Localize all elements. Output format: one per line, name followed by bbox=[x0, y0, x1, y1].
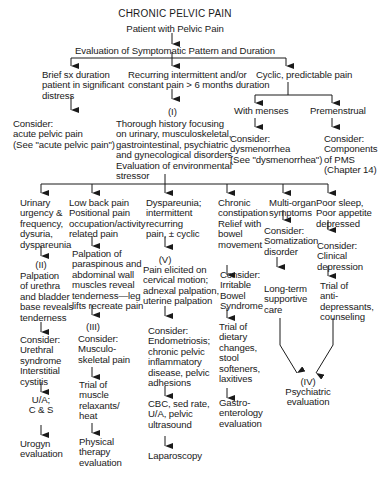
dysmenorrhea-node: Consider: dysmenorrhea (See "dysmenorrhe… bbox=[230, 134, 322, 165]
urethral-syndrome-node: Consider: Urethral syndrome Interstitial… bbox=[20, 335, 61, 387]
urethra-palpation-node: Palpation of urethra and bladder base re… bbox=[20, 271, 73, 323]
start-node: Patient with Pelvic Pain bbox=[100, 24, 250, 34]
muscle-relaxants-node: Trial of muscle relaxants/ heat bbox=[79, 380, 120, 422]
cyclic-node: Cyclic, predictable pain bbox=[256, 70, 352, 80]
multi-organ-node: Multi-organ symptoms bbox=[269, 198, 316, 219]
history-node: Thorough history focusing on urinary, mu… bbox=[116, 119, 232, 181]
acute-pain-node: Consider: acute pelvic pain (See "acute … bbox=[13, 119, 115, 150]
step-II-label: (II) bbox=[20, 260, 62, 270]
recurring-node: Recurring intermittent and/or constant p… bbox=[128, 70, 270, 91]
supportive-care-node: Long-term supportive care bbox=[264, 284, 307, 315]
gastroenterology-node: Gastro- enterology evaluation bbox=[219, 398, 263, 429]
ibs-node: Consider: Irritable Bowel Syndrome bbox=[220, 270, 263, 312]
ua-cs-node: U/A; C & S bbox=[20, 395, 62, 416]
dyspareunia-node: Dyspareunia; intermittent recurring pain… bbox=[146, 198, 201, 240]
antidepressants-node: Trial of anti- depressants, counseling bbox=[320, 281, 374, 323]
physical-therapy-node: Physical therapy evaluation bbox=[79, 437, 122, 468]
musculoskeletal-node: Consider: Musculo- skeletal pain bbox=[78, 334, 130, 365]
poor-sleep-node: Poor sleep, Poor appetite depressed bbox=[316, 198, 372, 229]
step-III-label: (III) bbox=[78, 322, 108, 332]
cervical-motion-node: Pain elicited on cervical motion; adnexa… bbox=[143, 265, 219, 307]
low-back-pain-node: Low back pain Positional pain occupation… bbox=[69, 198, 146, 240]
chart-title: CHRONIC PELVIC PAIN bbox=[100, 9, 250, 19]
premenstrual-node: Premenstrual bbox=[310, 106, 366, 116]
laparoscopy-node: Laparoscopy bbox=[148, 451, 202, 461]
pms-node: Consider: Components of PMS (Chapter 14) bbox=[324, 134, 377, 176]
step-I-label: (I) bbox=[168, 107, 177, 117]
clinical-depression-node: Consider: Clinical depression bbox=[317, 241, 363, 272]
psychiatric-evaluation-node: Psychiatric evaluation bbox=[280, 387, 336, 408]
evaluation-node: Evaluation of Symptomatic Pattern and Du… bbox=[60, 46, 290, 56]
brief-duration-node: Brief sx duration patient in significant… bbox=[42, 70, 124, 101]
dietary-trial-node: Trial of dietary changes, stool softener… bbox=[219, 322, 260, 384]
urinary-symptom-node: Urinary urgency & frequency, dysuria, dy… bbox=[20, 198, 71, 250]
somatization-node: Consider: Somatization disorder bbox=[264, 226, 318, 257]
endometriosis-node: Consider: Endometriosis; chronic pelvic … bbox=[148, 326, 210, 388]
cbc-node: CBC, sed rate, U/A, pelvic ultrasound bbox=[148, 399, 210, 430]
menses-node: With menses bbox=[234, 106, 288, 116]
paraspinous-palpation-node: Palpation of paraspinous and abdominal w… bbox=[72, 249, 143, 311]
urogyn-node: Urogyn evaluation bbox=[20, 439, 63, 460]
constipation-node: Chronic constipation Relief with bowel m… bbox=[218, 198, 268, 250]
